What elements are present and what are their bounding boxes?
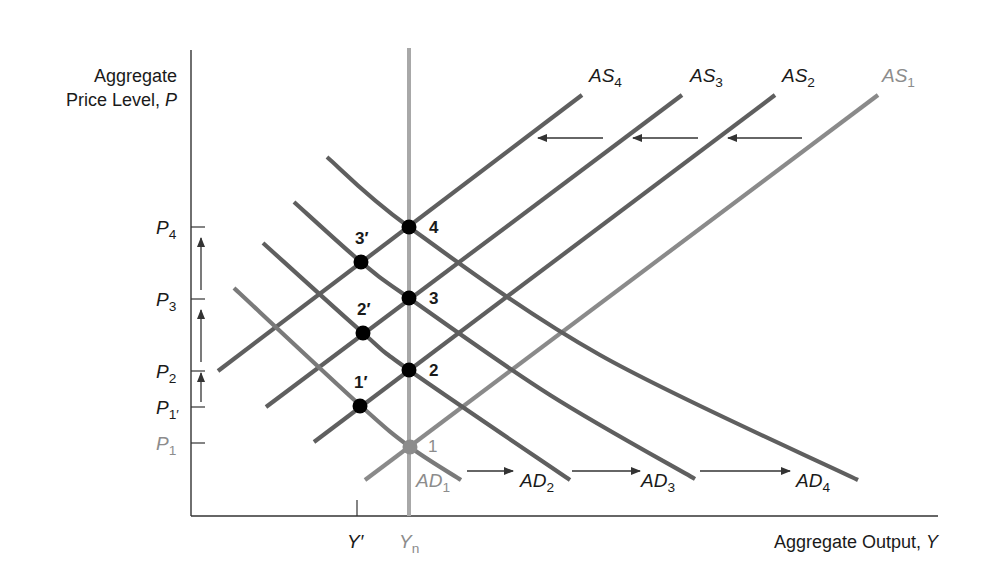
point-label: 2′ (357, 300, 371, 319)
y-tick-label: P1 (156, 433, 176, 458)
as3-label: AS3 (689, 65, 723, 90)
as4-curve (218, 95, 582, 371)
point-label: 3′ (355, 229, 369, 248)
as1-label: AS1 (881, 65, 915, 90)
y-tick-label: P3 (156, 289, 176, 314)
point-label: 3 (429, 289, 438, 308)
equilibrium-point (353, 399, 368, 414)
equilibrium-point (402, 220, 417, 235)
x-tick-label: Y′ (347, 531, 365, 552)
equilibrium-points: 43′32′21′1 (353, 218, 440, 456)
equilibrium-point (402, 363, 417, 378)
ad1-label: AD1 (415, 470, 450, 495)
point-label: 1 (428, 437, 437, 456)
y-tick-label: P1′ (156, 397, 179, 422)
y-tick-label: P4 (156, 217, 177, 242)
as2-label: AS2 (781, 65, 815, 90)
ad4-curve (327, 157, 858, 480)
curves (218, 95, 878, 480)
axes (191, 50, 938, 516)
ad4-label: AD4 (795, 470, 830, 495)
y-axis-title-line2: Price Level, P (66, 90, 177, 110)
shift-arrows (201, 138, 802, 471)
as4-label: AS4 (588, 65, 622, 90)
x-axis-title: Aggregate Output, Y (774, 532, 940, 552)
x-tick-label: Yn (399, 531, 419, 556)
ad2-label: AD2 (519, 470, 554, 495)
labels: P4P3P2P1′P1Y′YnAggregatePrice Level, PAg… (66, 65, 940, 556)
y-tick-label: P2 (156, 361, 176, 386)
equilibrium-point (356, 326, 371, 341)
as1-curve (365, 95, 878, 480)
as3-curve (266, 95, 682, 407)
point-label: 4 (429, 218, 439, 237)
point-label: 2 (429, 361, 438, 380)
point-label: 1′ (354, 373, 368, 392)
equilibrium-point (402, 291, 417, 306)
equilibrium-point (403, 440, 418, 455)
ad3-label: AD3 (640, 470, 675, 495)
equilibrium-point (354, 255, 369, 270)
as-ad-chart: 43′32′21′1 P4P3P2P1′P1Y′YnAggregatePrice… (0, 0, 985, 576)
y-axis-title-line1: Aggregate (94, 66, 177, 86)
